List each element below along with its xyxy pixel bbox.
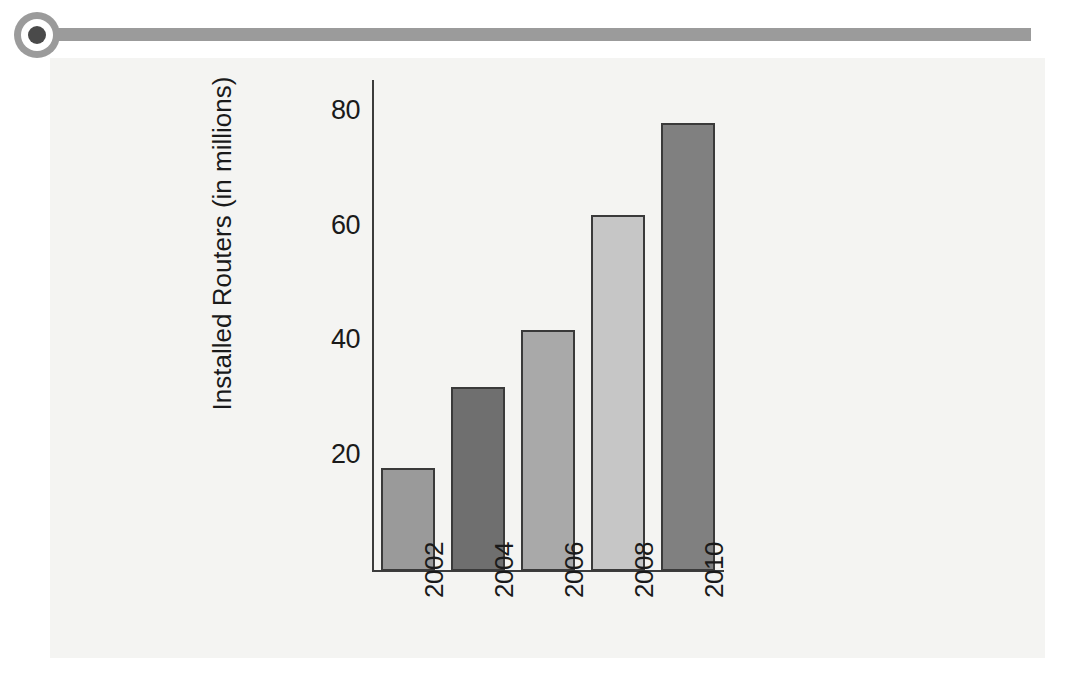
- y-axis-line: [372, 80, 374, 572]
- x-tick-label-2006: 2006: [559, 542, 590, 598]
- bar-2008: [591, 215, 645, 571]
- y-axis-title: Installed Routers (in millions): [207, 34, 238, 454]
- chart-panel: Installed Routers (in millions) 20406080…: [50, 58, 1045, 658]
- x-tick-label-2008: 2008: [629, 542, 660, 598]
- y-tick-label: 80: [300, 97, 360, 124]
- x-tick-label-2002: 2002: [419, 542, 450, 598]
- bar-2006: [521, 330, 575, 571]
- filled-circle-bullet-icon: [14, 12, 60, 58]
- x-tick-label-2010: 2010: [699, 542, 730, 598]
- x-tick-label-2004: 2004: [489, 542, 520, 598]
- bar-chart-plot-area: Installed Routers (in millions) 20406080…: [50, 58, 1045, 658]
- page-root: Installed Routers (in millions) 20406080…: [0, 0, 1091, 675]
- bullet-center-dot: [28, 26, 46, 44]
- bar-2010: [661, 123, 715, 571]
- y-tick-label: 40: [300, 326, 360, 353]
- y-tick-label: 20: [300, 441, 360, 468]
- header-horizontal-rule: [56, 28, 1031, 41]
- y-tick-label: 60: [300, 212, 360, 239]
